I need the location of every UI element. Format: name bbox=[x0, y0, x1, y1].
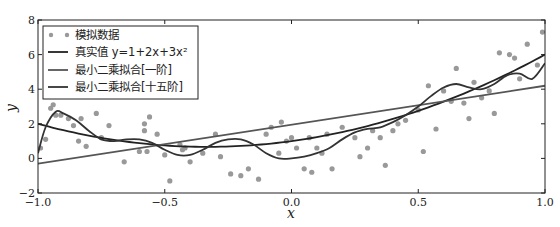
data-point bbox=[218, 154, 223, 159]
x-tick-label: 0.5 bbox=[410, 196, 428, 209]
y-tick-label: 6 bbox=[28, 49, 35, 62]
data-point bbox=[512, 55, 517, 60]
data-point bbox=[155, 132, 160, 137]
legend-label-poly15: 最小二乘拟合[十五阶] bbox=[75, 80, 183, 94]
data-point bbox=[122, 159, 127, 164]
legend-label-linear: 最小二乘拟合[一阶] bbox=[75, 63, 172, 77]
y-axis-label: y bbox=[3, 103, 19, 113]
chart: −1.0−0.50.00.51.0 −202468 x y 模拟数据 真实值 y… bbox=[0, 0, 560, 227]
data-point bbox=[352, 135, 357, 140]
x-tick-label: 1.0 bbox=[536, 196, 554, 209]
data-point bbox=[264, 132, 269, 137]
data-point bbox=[426, 83, 431, 88]
y-tick-label: 4 bbox=[28, 83, 35, 96]
data-point bbox=[162, 152, 167, 157]
data-point bbox=[228, 171, 233, 176]
data-point bbox=[390, 128, 395, 133]
data-point bbox=[395, 121, 400, 126]
data-point bbox=[314, 145, 319, 150]
data-point bbox=[492, 111, 497, 116]
data-point bbox=[466, 116, 471, 121]
data-point bbox=[433, 126, 438, 131]
data-point bbox=[487, 88, 492, 93]
data-point bbox=[378, 135, 383, 140]
data-point bbox=[238, 173, 243, 178]
data-point bbox=[454, 66, 459, 71]
legend-marker-scatter bbox=[65, 33, 69, 37]
data-point bbox=[106, 123, 111, 128]
data-point bbox=[71, 123, 76, 128]
data-point bbox=[507, 52, 512, 57]
data-point bbox=[289, 135, 294, 140]
data-point bbox=[51, 102, 56, 107]
data-point bbox=[461, 100, 466, 105]
legend-marker-scatter bbox=[49, 33, 53, 37]
data-point bbox=[94, 111, 99, 116]
legend: 模拟数据 真实值 y=1+2x+3x² 最小二乘拟合[一阶] 最小二乘拟合[十五… bbox=[43, 26, 198, 99]
data-point bbox=[383, 163, 388, 168]
data-point bbox=[403, 118, 408, 123]
data-point bbox=[78, 116, 83, 121]
data-point bbox=[497, 50, 502, 55]
data-point bbox=[535, 62, 540, 67]
data-point bbox=[142, 128, 147, 133]
y-tick-label: −2 bbox=[19, 187, 35, 200]
data-point bbox=[421, 149, 426, 154]
data-point bbox=[188, 159, 193, 164]
data-point bbox=[279, 119, 284, 124]
x-axis-label: x bbox=[287, 205, 295, 221]
data-point bbox=[365, 145, 370, 150]
data-point bbox=[147, 114, 152, 119]
y-tick-label: 0 bbox=[28, 152, 35, 165]
data-point bbox=[540, 30, 545, 35]
data-point bbox=[471, 80, 476, 85]
data-point bbox=[84, 144, 89, 149]
data-point bbox=[43, 137, 48, 142]
data-point bbox=[302, 166, 307, 171]
data-point bbox=[246, 166, 251, 171]
data-point bbox=[294, 145, 299, 150]
data-point bbox=[76, 139, 81, 144]
legend-label-data: 模拟数据 bbox=[75, 28, 120, 42]
y-tick-label: 8 bbox=[28, 14, 35, 27]
data-point bbox=[142, 121, 147, 126]
y-tick-label: 2 bbox=[28, 118, 35, 131]
data-point bbox=[137, 149, 142, 154]
data-point bbox=[167, 178, 172, 183]
data-point bbox=[340, 125, 345, 130]
data-point bbox=[276, 151, 281, 156]
legend-label-true: 真实值 y=1+2x+3x² bbox=[75, 45, 188, 59]
data-point bbox=[525, 42, 530, 47]
data-point bbox=[329, 166, 334, 171]
data-point bbox=[144, 149, 149, 154]
x-tick-label: −0.5 bbox=[151, 196, 178, 209]
data-point bbox=[256, 177, 261, 182]
data-point bbox=[309, 170, 314, 175]
data-point bbox=[517, 76, 522, 81]
data-point bbox=[357, 154, 362, 159]
